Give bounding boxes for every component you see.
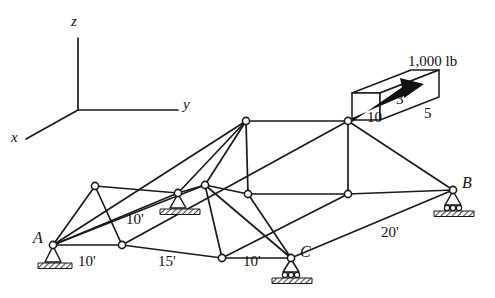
load-label: 1,000 lb [408,54,457,69]
support-b-roller-2 [450,205,455,210]
support-c-ground [272,278,312,284]
axis-label-x: x [11,130,18,145]
dimension-bottom-2: 15' [158,254,176,269]
member-c-b [291,190,453,258]
axis-label-y: y [183,97,190,112]
coordinate-axes [26,38,178,139]
support-b-roller-1 [444,205,449,210]
member-i-j-vert [246,121,248,194]
dimension-right: 20' [381,225,399,240]
joint-l [344,190,351,197]
support-c-roller [272,259,312,284]
node-label-b: B [462,175,472,191]
space-truss-figure: z y x A B C 10' 15' 10' 10' 20' 1,000 lb… [0,0,495,298]
support-f-ground [160,209,200,215]
joint-e [118,241,125,248]
joint-a [49,241,56,248]
slope-number-depth: 5 [424,106,432,121]
support-b-roller-3 [456,205,461,210]
dimension-height: 10' [126,212,144,227]
support-c-roller-2 [288,272,293,277]
joint-j [244,190,251,197]
member-g-h-vert [205,185,222,258]
joint-b [449,186,456,193]
joint-f [174,189,181,196]
node-label-c: C [300,244,311,260]
joint-i [242,117,249,124]
member-a-i [53,121,246,245]
joint-g [201,181,208,188]
member-i-g [205,121,246,185]
support-b-ground [434,211,474,217]
joint-h [218,254,225,261]
slope-number-horizontal: 10 [367,110,382,125]
support-a-ground [38,263,72,269]
slope-number-vertical: 3 [396,92,404,107]
joint-d [91,182,98,189]
joint-c [287,254,294,261]
joint-k [344,117,351,124]
dimension-bottom-1: 10' [78,254,96,269]
support-c-roller-1 [282,272,287,277]
member-k-b [348,121,453,190]
axis-x-line [26,110,78,139]
support-c-roller-3 [294,272,299,277]
member-l-b [348,190,453,194]
node-label-a: A [33,230,43,246]
dimension-bottom-3: 10' [243,254,261,269]
support-a-pin [38,246,72,269]
axis-label-z: z [71,14,77,29]
